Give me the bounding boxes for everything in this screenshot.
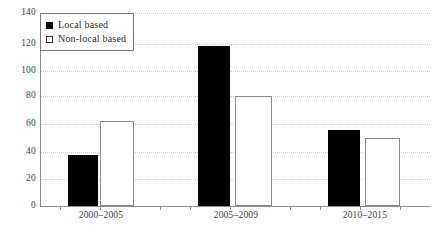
open-square-icon (46, 36, 53, 43)
legend-label-nonlocal: Non-local based (58, 34, 126, 44)
y-tick-label: 80 (2, 91, 36, 101)
y-tick-label: 0 (2, 201, 36, 211)
y-tick-label: 140 (2, 8, 36, 18)
y-tick-label: 120 (2, 39, 36, 49)
x-axis-line (40, 206, 431, 207)
x-tickmark (290, 206, 291, 210)
bar-nonlocal-2005-2009 (235, 96, 272, 206)
x-tickmark (60, 206, 61, 210)
bar-nonlocal-2010-2015 (365, 138, 400, 206)
y-axis-tick-labels: 140 120 100 80 60 40 20 0 (0, 0, 36, 235)
x-tickmark (190, 206, 191, 210)
bar-local-2010-2015 (328, 130, 360, 206)
y-tick-label: 60 (2, 119, 36, 129)
legend-label-local: Local based (58, 20, 108, 30)
x-tickmark (160, 206, 161, 210)
legend: Local based Non-local based (40, 13, 134, 51)
filled-square-icon (46, 22, 53, 29)
bar-local-2005-2009 (198, 46, 230, 206)
legend-item-nonlocal: Non-local based (46, 32, 126, 46)
y-tick-label: 100 (2, 66, 36, 76)
x-axis-label-group-2: 2005–2009 (214, 211, 259, 221)
bar-nonlocal-2000-2005 (100, 121, 134, 206)
x-tickmark (400, 206, 401, 210)
x-axis-label-group-3: 2010–2015 (343, 211, 388, 221)
bar-chart: 140 120 100 80 60 40 20 0 2000–2005 2005… (0, 0, 446, 235)
y-tick-label: 40 (2, 147, 36, 157)
x-tickmark (320, 206, 321, 210)
y-tick-label: 20 (2, 174, 36, 184)
legend-item-local: Local based (46, 18, 126, 32)
bar-local-2000-2005 (68, 155, 98, 206)
x-axis-label-group-1: 2000–2005 (79, 211, 124, 221)
